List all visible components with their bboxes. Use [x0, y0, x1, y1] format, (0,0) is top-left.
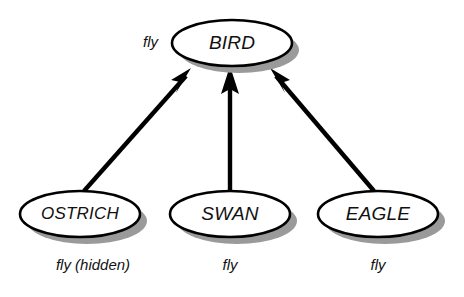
- diagram-canvas: BIRD OSTRICH SWAN EAGLE fly fly (hidden)…: [0, 0, 464, 297]
- edge-eagle-to-bird[interactable]: [270, 68, 374, 191]
- edge-line-eagle-bird: [276, 76, 374, 191]
- node-swan[interactable]: SWAN: [170, 191, 297, 244]
- edge-line-ostrich-bird: [84, 76, 186, 191]
- property-label-ostrich: fly (hidden): [56, 256, 130, 273]
- edge-ostrich-to-bird[interactable]: [84, 68, 191, 191]
- node-eagle-label: EAGLE: [346, 203, 410, 224]
- property-label-eagle: fly: [371, 256, 388, 273]
- node-eagle[interactable]: EAGLE: [318, 191, 445, 244]
- property-label-bird: fly: [143, 33, 160, 50]
- node-ostrich-label: OSTRICH: [41, 204, 119, 223]
- semantic-network-diagram: BIRD OSTRICH SWAN EAGLE fly fly (hidden)…: [0, 0, 464, 297]
- property-label-swan: fly: [223, 256, 240, 273]
- node-swan-label: SWAN: [201, 203, 259, 224]
- node-bird-label: BIRD: [209, 32, 255, 53]
- edge-swan-to-bird[interactable]: [221, 66, 239, 191]
- node-ostrich[interactable]: OSTRICH: [20, 191, 147, 244]
- node-bird[interactable]: BIRD: [172, 20, 299, 73]
- edge-group: [84, 66, 374, 191]
